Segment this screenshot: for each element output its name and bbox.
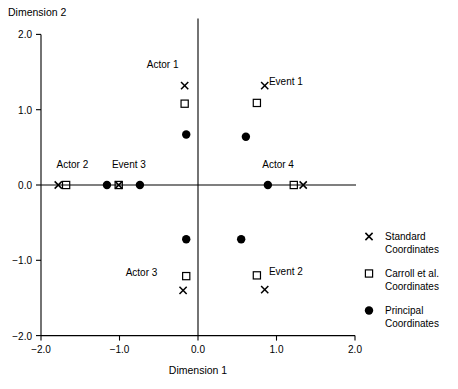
point-group-label: Actor 4 (262, 159, 294, 170)
standard-coordinate-marker (261, 286, 268, 293)
legend-item[interactable]: StandardCoordinates (365, 231, 439, 255)
principal-coordinate-marker (237, 235, 245, 243)
principal-coordinate-marker (264, 181, 272, 189)
series-square (63, 99, 298, 279)
legend-item-label: Principal (385, 305, 423, 316)
standard-coordinate-marker (261, 82, 268, 89)
principal-coordinate-marker (103, 181, 111, 189)
carroll-coordinate-marker (183, 273, 190, 280)
y-axis-tick-label: 0.0 (18, 180, 32, 191)
legend-principal-coordinate-marker (365, 306, 373, 314)
legend-item[interactable]: PrincipalCoordinates (365, 305, 439, 329)
point-group-label: Actor 3 (126, 267, 158, 278)
scatter-plot-figure: −2.0−1.00.01.02.02.01.00.0−1.0−2.0Dimens… (0, 0, 458, 389)
legend-item-label-line2: Coordinates (385, 244, 439, 255)
series-dot (103, 130, 272, 243)
legend-item[interactable]: Carroll et al.Coordinates (365, 268, 439, 292)
legend-item-label: Standard (385, 231, 426, 242)
x-axis-tick-label: −2.0 (31, 344, 51, 355)
y-axis-tick-label: −2.0 (12, 331, 32, 342)
legend-standard-coordinate-marker (365, 233, 372, 240)
x-axis-title: Dimension 1 (169, 364, 228, 376)
y-axis-tick-label: 1.0 (18, 105, 32, 116)
legend-item-label: Carroll et al. (385, 268, 439, 279)
point-group-label: Event 3 (112, 159, 146, 170)
x-axis-tick-label: 2.0 (348, 344, 362, 355)
principal-coordinate-marker (182, 235, 190, 243)
principal-coordinate-marker (182, 130, 190, 138)
x-axis-tick-label: 0.0 (191, 344, 205, 355)
legend-item-label-line2: Coordinates (385, 318, 439, 329)
carroll-coordinate-marker (253, 272, 260, 279)
point-group-label: Actor 2 (57, 159, 89, 170)
carroll-coordinate-marker (181, 100, 188, 107)
point-group-label: Event 1 (269, 76, 303, 87)
y-axis-title: Dimension 2 (8, 6, 67, 18)
standard-coordinate-marker (179, 287, 186, 294)
point-group-label: Event 2 (269, 266, 303, 277)
y-axis-tick-label: −1.0 (12, 255, 32, 266)
legend: StandardCoordinatesCarroll et al.Coordin… (365, 231, 439, 329)
point-group-label: Actor 1 (147, 59, 179, 70)
carroll-coordinate-marker (253, 99, 260, 106)
x-axis-tick-label: 1.0 (270, 344, 284, 355)
y-axis-tick-label: 2.0 (18, 29, 32, 40)
principal-coordinate-marker (242, 133, 250, 141)
legend-item-label-line2: Coordinates (385, 281, 439, 292)
principal-coordinate-marker (136, 181, 144, 189)
x-axis-tick-label: −1.0 (110, 344, 130, 355)
plot-canvas: −2.0−1.00.01.02.02.01.00.0−1.0−2.0Dimens… (0, 0, 458, 389)
standard-coordinate-marker (181, 82, 188, 89)
legend-carroll-coordinate-marker (365, 270, 372, 277)
